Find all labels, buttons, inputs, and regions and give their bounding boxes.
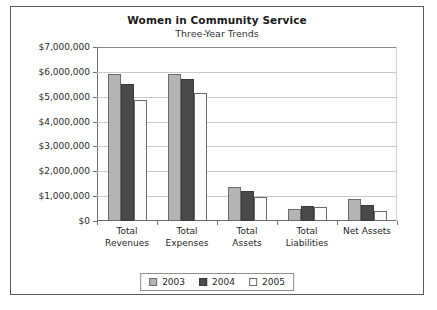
bar-total-expenses-2003 xyxy=(168,74,181,221)
bars-layer xyxy=(97,47,397,221)
x-axis-label-total-revenues: TotalRevenues xyxy=(105,226,149,249)
x-axis-label-line: Total xyxy=(286,226,329,238)
legend-label: 2004 xyxy=(212,277,235,287)
bar-total-liabilities-2005 xyxy=(314,207,327,221)
x-axis-label-total-liabilities: TotalLiabilities xyxy=(286,226,329,249)
legend-item-2003[interactable]: 2003 xyxy=(149,277,185,287)
bar-total-assets-2005 xyxy=(254,197,267,221)
bar-net-assets-2004 xyxy=(361,205,374,221)
bar-total-revenues-2003 xyxy=(108,74,121,221)
bar-total-assets-2004 xyxy=(241,191,254,221)
x-axis-tick xyxy=(397,221,398,225)
x-axis-label-line: Total xyxy=(232,226,261,238)
bar-total-expenses-2004 xyxy=(181,79,194,221)
y-axis-tick-label: $0 xyxy=(79,216,90,226)
chart-subtitle: Three-Year Trends xyxy=(11,27,423,40)
legend-item-2005[interactable]: 2005 xyxy=(249,277,285,287)
x-axis-tick xyxy=(337,221,338,225)
x-axis-tick xyxy=(97,221,98,225)
y-axis-tick-label: $4,000,000 xyxy=(38,117,90,127)
legend-swatch-2003-icon xyxy=(149,278,157,286)
legend-item-2004[interactable]: 2004 xyxy=(199,277,235,287)
chart-legend: 200320042005 xyxy=(140,273,294,291)
bar-group xyxy=(217,47,277,221)
bar-total-liabilities-2004 xyxy=(301,206,314,221)
bar-group xyxy=(337,47,397,221)
legend-label: 2003 xyxy=(162,277,185,287)
x-axis-label-line: Assets xyxy=(232,238,261,250)
bar-total-revenues-2004 xyxy=(121,84,134,221)
x-axis-label-line: Net Assets xyxy=(343,226,391,238)
x-axis-label-net-assets: Net Assets xyxy=(343,226,391,238)
legend-swatch-2004-icon xyxy=(199,278,207,286)
bar-group xyxy=(97,47,157,221)
y-axis-tick-label: $5,000,000 xyxy=(38,92,90,102)
bar-total-expenses-2005 xyxy=(194,93,207,221)
y-axis-tick-label: $1,000,000 xyxy=(38,191,90,201)
x-axis-tick xyxy=(217,221,218,225)
y-axis-tick-label: $3,000,000 xyxy=(38,141,90,151)
legend-swatch-2005-icon xyxy=(249,278,257,286)
x-axis-label-line: Total xyxy=(105,226,149,238)
x-axis-label-line: Total xyxy=(166,226,209,238)
y-axis-tick-label: $7,000,000 xyxy=(38,42,90,52)
bar-group xyxy=(277,47,337,221)
bar-group xyxy=(157,47,217,221)
x-axis-label-line: Revenues xyxy=(105,238,149,250)
y-axis-tick-label: $2,000,000 xyxy=(38,166,90,176)
bar-net-assets-2003 xyxy=(348,199,361,221)
bar-net-assets-2005 xyxy=(374,211,387,221)
x-axis-tick xyxy=(277,221,278,225)
x-axis-label-line: Liabilities xyxy=(286,238,329,250)
bar-total-liabilities-2003 xyxy=(288,209,301,221)
bar-total-revenues-2005 xyxy=(134,100,147,221)
page-title: Women in Community Service xyxy=(11,14,423,27)
x-axis-labels: TotalRevenuesTotalExpensesTotalAssetsTot… xyxy=(97,226,397,260)
legend-label: 2005 xyxy=(262,277,285,287)
y-axis-tick-label: $6,000,000 xyxy=(38,67,90,77)
x-axis-label-total-expenses: TotalExpenses xyxy=(166,226,209,249)
x-axis-label-line: Expenses xyxy=(166,238,209,250)
chart-title-block: Women in Community Service Three-Year Tr… xyxy=(11,14,423,40)
chart-frame: Women in Community Service Three-Year Tr… xyxy=(10,6,424,295)
x-axis-label-total-assets: TotalAssets xyxy=(232,226,261,249)
bar-total-assets-2003 xyxy=(228,187,241,221)
x-axis-tick xyxy=(157,221,158,225)
plot-area: $7,000,000$6,000,000$5,000,000$4,000,000… xyxy=(97,47,397,221)
